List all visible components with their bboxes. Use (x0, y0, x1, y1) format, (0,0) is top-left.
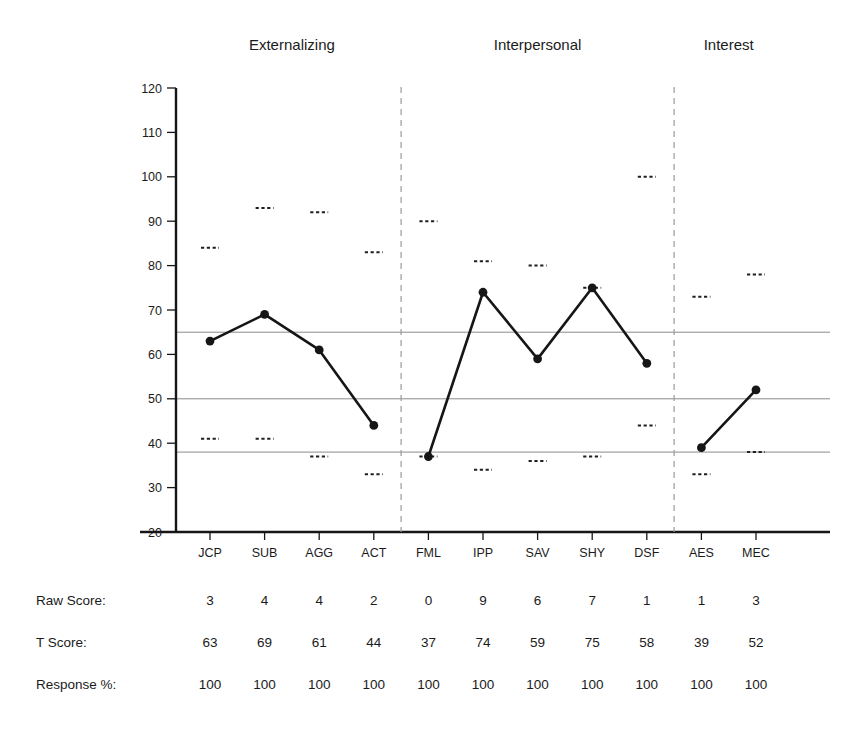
score-cell-AGG: 61 (312, 635, 327, 650)
score-row-label: T Score: (36, 635, 87, 650)
data-point-SAV[interactable] (533, 354, 542, 363)
score-cell-AES: 1 (698, 593, 706, 608)
score-cell-IPP: 9 (479, 593, 487, 608)
y-tick-label-110: 110 (142, 126, 162, 140)
x-axis-label-DSF: DSF (634, 546, 659, 560)
score-cell-SHY: 75 (585, 635, 600, 650)
score-cell-JCP: 63 (202, 635, 217, 650)
data-point-IPP[interactable] (479, 288, 488, 297)
data-point-AGG[interactable] (315, 346, 324, 355)
score-cell-SAV: 100 (526, 677, 549, 692)
score-cell-SUB: 4 (261, 593, 269, 608)
score-cell-AES: 100 (690, 677, 713, 692)
y-tick-label-100: 100 (141, 170, 162, 184)
x-axis-label-ACT: ACT (361, 546, 386, 560)
data-point-JCP[interactable] (206, 337, 215, 346)
y-tick-label-90: 90 (148, 215, 162, 229)
score-cell-SAV: 59 (530, 635, 545, 650)
x-axis-label-AES: AES (689, 546, 714, 560)
score-cell-FML: 37 (421, 635, 436, 650)
score-cell-FML: 0 (425, 593, 433, 608)
profile-plot-svg: 2030405060708090100110120JCPSUBAGGACTFML… (0, 0, 841, 585)
score-table: Raw Score:34420967113T Score:63696144377… (0, 583, 841, 753)
x-axis-label-MEC: MEC (742, 546, 770, 560)
profile-sheet: ExternalizingInterpersonalInterest 20304… (0, 0, 841, 753)
profile-chart: 2030405060708090100110120JCPSUBAGGACTFML… (0, 0, 841, 585)
x-axis-label-SUB: SUB (252, 546, 278, 560)
score-cell-ACT: 44 (366, 635, 381, 650)
y-tick-label-20: 20 (148, 526, 162, 540)
score-cell-SUB: 69 (257, 635, 272, 650)
score-cell-SAV: 6 (534, 593, 542, 608)
score-cell-SUB: 100 (253, 677, 276, 692)
x-axis-label-AGG: AGG (305, 546, 333, 560)
score-row: T Score:6369614437745975583952 (0, 635, 841, 675)
score-cell-IPP: 74 (475, 635, 490, 650)
score-cell-JCP: 100 (199, 677, 222, 692)
score-cell-JCP: 3 (206, 593, 214, 608)
data-point-SHY[interactable] (588, 283, 597, 292)
score-cell-DSF: 1 (643, 593, 651, 608)
y-tick-label-120: 120 (141, 82, 162, 96)
score-cell-IPP: 100 (472, 677, 495, 692)
score-cell-MEC: 52 (748, 635, 763, 650)
score-row: Response %:10010010010010010010010010010… (0, 677, 841, 717)
y-tick-label-30: 30 (148, 481, 162, 495)
x-axis-label-SHY: SHY (579, 546, 605, 560)
profile-line-externalizing (210, 314, 374, 425)
data-point-SUB[interactable] (260, 310, 269, 319)
score-row: Raw Score:34420967113 (0, 593, 841, 633)
x-axis-label-JCP: JCP (198, 546, 222, 560)
y-tick-label-70: 70 (148, 304, 162, 318)
data-point-DSF[interactable] (642, 359, 651, 368)
y-tick-label-80: 80 (148, 259, 162, 273)
score-cell-DSF: 58 (639, 635, 654, 650)
data-point-MEC[interactable] (752, 386, 761, 395)
y-tick-label-60: 60 (148, 348, 162, 362)
score-cell-FML: 100 (417, 677, 440, 692)
profile-line-interpersonal (428, 288, 646, 457)
y-tick-label-50: 50 (148, 392, 162, 406)
score-cell-ACT: 100 (363, 677, 386, 692)
data-point-ACT[interactable] (369, 421, 378, 430)
score-row-label: Raw Score: (36, 593, 106, 608)
x-axis-label-FML: FML (416, 546, 441, 560)
score-cell-SHY: 7 (588, 593, 596, 608)
score-cell-DSF: 100 (636, 677, 659, 692)
score-cell-SHY: 100 (581, 677, 604, 692)
score-cell-MEC: 100 (745, 677, 768, 692)
score-cell-AGG: 100 (308, 677, 331, 692)
score-cell-AES: 39 (694, 635, 709, 650)
score-cell-MEC: 3 (752, 593, 760, 608)
y-tick-label-40: 40 (148, 437, 162, 451)
data-point-FML[interactable] (424, 452, 433, 461)
score-cell-AGG: 4 (315, 593, 323, 608)
x-axis-label-IPP: IPP (473, 546, 493, 560)
score-row-label: Response %: (36, 677, 116, 692)
data-point-AES[interactable] (697, 443, 706, 452)
x-axis-label-SAV: SAV (526, 546, 551, 560)
score-cell-ACT: 2 (370, 593, 378, 608)
